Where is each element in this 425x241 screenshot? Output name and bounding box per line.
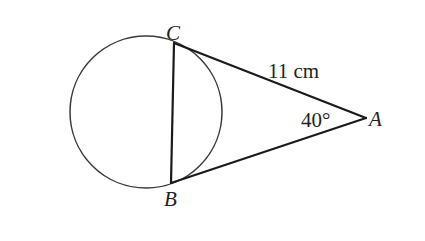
length-label-ca: 11 cm <box>268 59 319 83</box>
point-label-b: B <box>164 187 177 211</box>
tangent-circle-diagram: C B A 11 cm 40° <box>0 0 425 241</box>
angle-label-a: 40° <box>301 108 330 132</box>
point-label-c: C <box>166 21 181 45</box>
point-label-a: A <box>367 107 382 131</box>
